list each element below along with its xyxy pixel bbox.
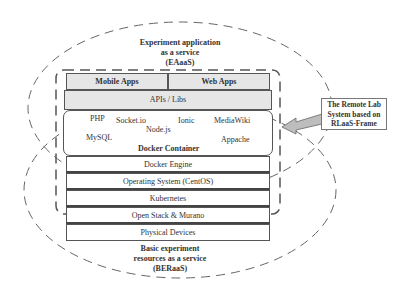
callout-line2: System based on	[322, 110, 386, 120]
docker-container: PHP Socket.io Ionic MediaWiki Node.js My…	[63, 110, 273, 156]
eaaas-line3: (EAaaS)	[120, 58, 240, 68]
docker-container-title: Docker Container	[138, 144, 199, 153]
remote-lab-callout: The Remote Lab System based on RLaaS-Fra…	[321, 98, 387, 130]
tech-mysql: MySQL	[86, 133, 112, 142]
apis-libs-layer: APIs / Libs	[64, 90, 272, 110]
callout-line3: RLaaS-Frame	[322, 119, 386, 129]
beraas-line2: resources as a service	[105, 254, 235, 264]
tech-ionic: Ionic	[178, 116, 194, 125]
tech-mediawiki: MediaWiki	[214, 116, 250, 125]
web-apps-layer: Web Apps	[168, 73, 270, 90]
os-layer: Operating System (CentOS)	[66, 173, 270, 190]
beraas-label: Basic experiment resources as a service …	[105, 244, 235, 274]
eaaas-label: Experiment application as a service (EAa…	[120, 38, 240, 68]
tech-php: PHP	[90, 114, 105, 123]
physical-devices-layer: Physical Devices	[66, 224, 270, 241]
mobile-apps-layer: Mobile Apps	[66, 73, 168, 90]
tech-appache: Appache	[221, 135, 249, 144]
docker-engine-layer: Docker Engine	[66, 156, 270, 173]
eaaas-line1: Experiment application	[120, 38, 240, 48]
callout-line1: The Remote Lab	[322, 100, 386, 110]
beraas-line1: Basic experiment	[105, 244, 235, 254]
kubernetes-layer: Kubernetes	[66, 190, 270, 207]
eaaas-line2: as a service	[120, 48, 240, 58]
tech-socketio: Socket.io	[116, 116, 146, 125]
openstack-layer: Open Stack & Murano	[66, 207, 270, 224]
tech-nodejs: Node.js	[146, 125, 171, 134]
arrow-icon	[282, 114, 322, 134]
beraas-line3: (BERaaS)	[105, 264, 235, 274]
